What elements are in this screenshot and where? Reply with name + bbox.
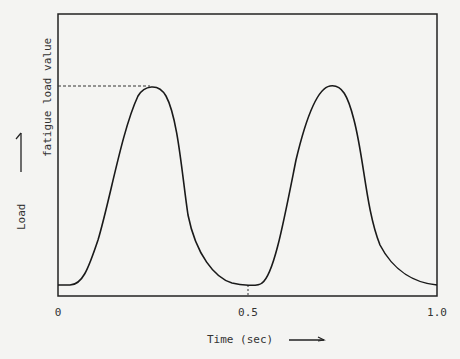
load-curve	[58, 86, 437, 286]
x-tick-1-0: 1.0	[427, 306, 447, 319]
y-axis-label: Load	[15, 204, 28, 231]
load-time-chart: 0 0.5 1.0 Time (sec) Load fatigue load v…	[0, 0, 460, 359]
x-tick-0-5: 0.5	[238, 306, 258, 319]
x-axis-label: Time (sec)	[207, 333, 273, 346]
fatigue-load-label: fatigue load value	[41, 38, 54, 157]
y-axis-arrowhead-icon	[16, 133, 21, 139]
plot-frame	[58, 14, 437, 296]
x-tick-0: 0	[55, 306, 62, 319]
x-axis-arrowhead-icon	[318, 337, 324, 341]
